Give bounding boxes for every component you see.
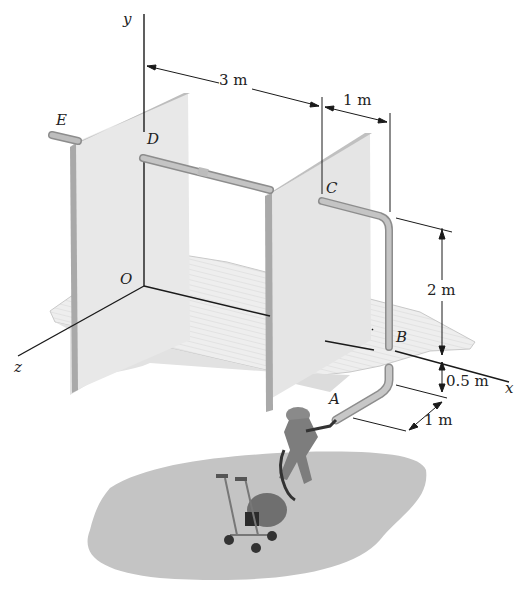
point-E-label: E [56, 113, 67, 128]
dimension-3m: 3 m [219, 73, 248, 88]
dimension-1m-bottom: 1 m [424, 413, 453, 428]
dimension-1m-top: 1 m [343, 93, 372, 108]
point-A-label: A [329, 392, 340, 407]
dimension-2m: 2 m [427, 283, 456, 298]
point-B-label: B [396, 330, 407, 345]
x-axis-label: x [505, 381, 513, 396]
point-D-label: D [147, 132, 159, 147]
origin-label: O [120, 272, 132, 287]
y-axis-label: y [123, 12, 131, 27]
point-C-label: C [326, 181, 337, 196]
dimension-0-5m: 0.5 m [446, 374, 489, 389]
z-axis-label: z [14, 360, 22, 375]
